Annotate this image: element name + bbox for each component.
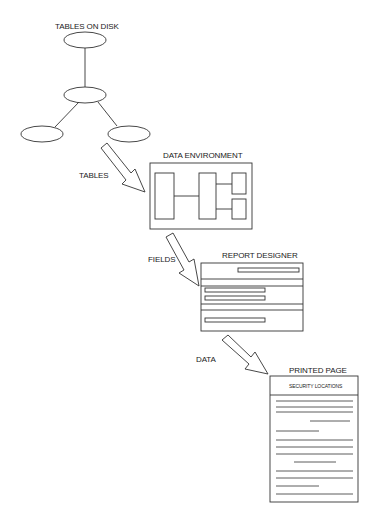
report-field-bar [238, 268, 299, 272]
label-arrow-data: DATA [196, 356, 216, 364]
table-disk-left [21, 126, 63, 142]
report-field-bar [205, 318, 265, 322]
table-disk-middle [64, 87, 106, 103]
arrow-data-icon [222, 335, 268, 374]
report-field-bar [205, 288, 265, 292]
label-arrow-tables: TABLES [79, 172, 109, 180]
arrow-tables-icon [101, 143, 145, 192]
printed-page [270, 376, 358, 502]
tables-tree [21, 32, 150, 142]
table-disk-root [64, 32, 106, 48]
label-arrow-fields: FIELDS [148, 256, 175, 264]
label-report-designer: REPORT DESIGNER [222, 252, 298, 260]
label-tables-on-disk: TABLES ON DISK [55, 23, 119, 31]
data-environment-box [150, 163, 252, 229]
report-field-bar [205, 296, 265, 300]
printed-page-header: SECURITY LOCATIONS [289, 384, 342, 389]
table-disk-right [108, 126, 150, 142]
label-printed-page: PRINTED PAGE [289, 367, 347, 375]
label-data-environment: DATA ENVIRONMENT [163, 152, 242, 160]
report-designer-box [201, 263, 303, 331]
diagram-canvas [0, 0, 383, 522]
